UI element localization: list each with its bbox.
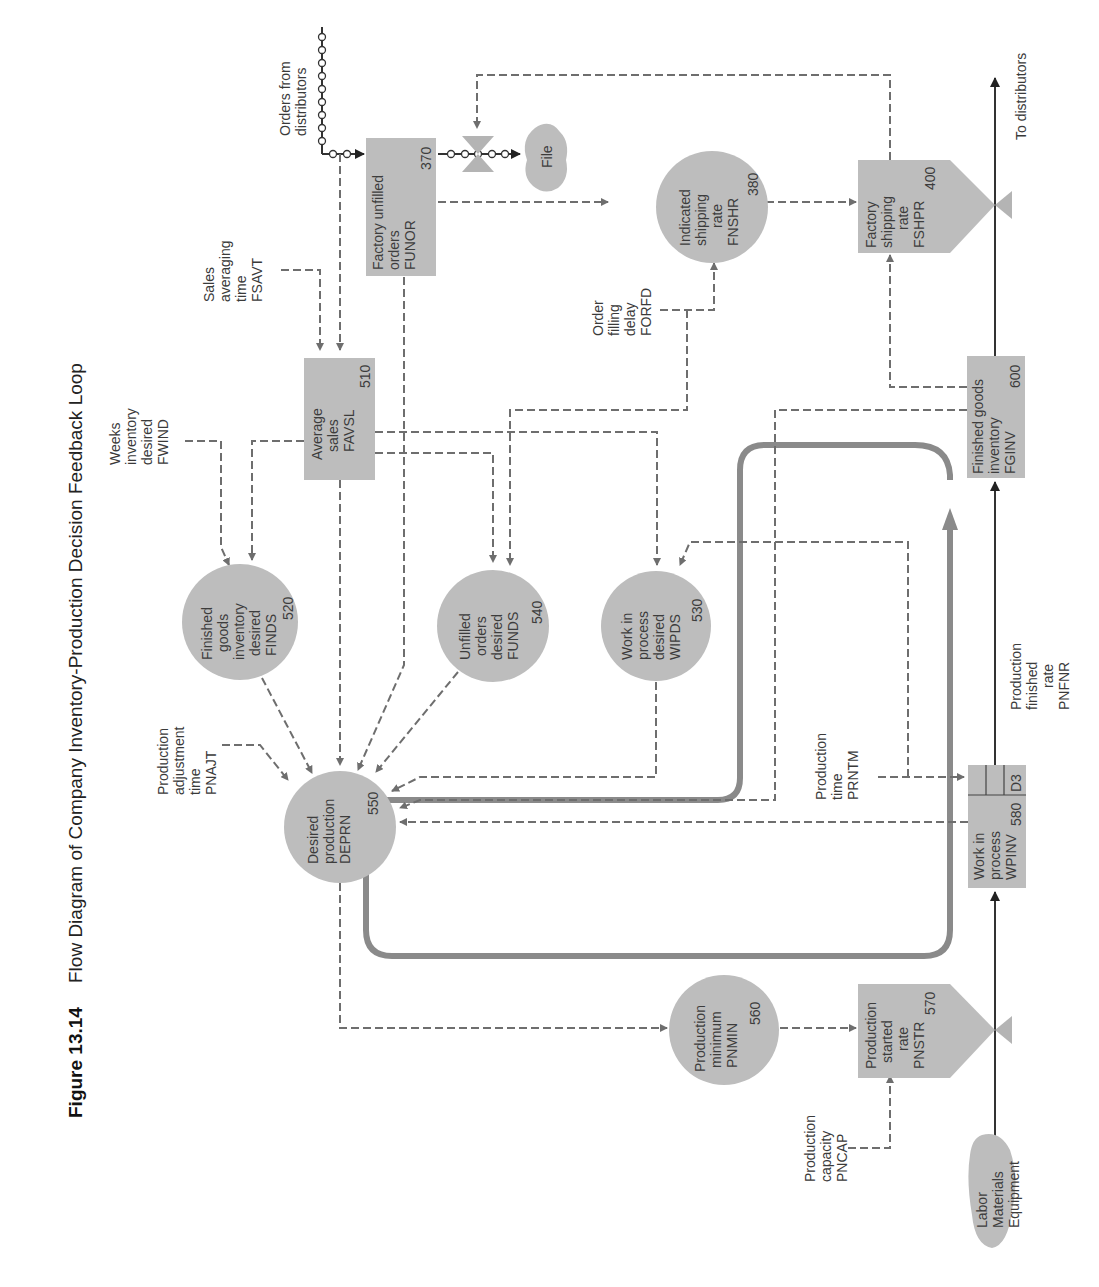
svg-text:FINDS: FINDS [263,614,279,656]
svg-text:PNAJT: PNAJT [203,750,219,795]
svg-text:400: 400 [922,166,938,190]
svg-text:Labor: Labor [974,1192,990,1228]
svg-text:rate: rate [1040,664,1056,688]
svg-text:inventory: inventory [231,603,247,660]
svg-text:inventory: inventory [123,408,139,465]
svg-text:530: 530 [689,598,705,622]
flow-diagram: Figure 13.14 Flow Diagram of Company Inv… [0,0,1099,1287]
label-orders-from: Orders from distributors [277,61,309,136]
svg-text:process: process [635,611,651,660]
svg-text:rate: rate [895,206,911,230]
source-file-cloud: File [525,124,567,192]
svg-text:PRNTM: PRNTM [845,750,861,800]
svg-text:finished: finished [1024,662,1040,710]
svg-text:delay: delay [622,303,638,336]
figure-title: Figure 13.14 Flow Diagram of Company Inv… [65,363,86,1118]
svg-text:orders: orders [386,230,402,270]
svg-text:Production: Production [1008,643,1024,710]
svg-text:desired: desired [489,614,505,660]
svg-text:orders: orders [473,616,489,656]
rate-valve-icon [995,1016,1012,1044]
svg-text:production: production [321,799,337,864]
svg-text:510: 510 [357,364,373,388]
node-pnstr[interactable]: Production started rate PNSTR 570 [858,984,995,1078]
feedback-loop [360,445,958,956]
svg-text:started: started [879,1020,895,1063]
svg-text:Materials: Materials [990,1171,1006,1228]
svg-text:PNCAP: PNCAP [834,1134,850,1182]
svg-text:sales: sales [325,419,341,452]
svg-text:desired: desired [247,610,263,656]
node-deprn[interactable]: Desired production DEPRN 550 [284,771,396,883]
svg-text:Average: Average [309,408,325,460]
svg-text:Finished: Finished [199,607,215,660]
label-fwind: Weeks inventory desired FWIND [107,408,171,465]
svg-text:370: 370 [418,146,434,170]
loop-arrow-icon [942,508,958,530]
svg-text:520: 520 [280,596,296,620]
svg-text:380: 380 [745,172,761,196]
svg-text:rate: rate [709,204,725,228]
svg-text:time: time [187,768,203,795]
node-pnmin[interactable]: Production minimum PNMIN 560 [669,975,779,1085]
node-fnshr[interactable]: Indicated shipping rate FNSHR FNSHR 380 [656,151,768,263]
node-funds[interactable]: Unfilled orders desired FUNDS 540 [437,570,549,682]
svg-text:File: File [539,145,555,168]
node-fshpr[interactable]: Factory shipping rate FSHPR 400 [858,160,995,253]
svg-text:goods: goods [215,614,231,652]
node-wpinv[interactable]: D3 Work in process WPINV 580 [968,765,1026,888]
svg-text:adjustment: adjustment [171,726,187,795]
information-links [185,75,968,1148]
svg-text:WPINV: WPINV [1003,833,1019,880]
svg-text:Orders from: Orders from [277,61,293,136]
svg-text:FNSHR: FNSHR [725,198,741,246]
node-favsl[interactable]: Average sales FAVSL 510 [304,358,375,480]
svg-text:Production: Production [813,733,829,800]
svg-text:Equipment: Equipment [1006,1161,1022,1228]
svg-text:FORFD: FORFD [638,288,654,336]
node-fginv[interactable]: Finished goods inventory FGINV 600 [967,356,1025,478]
delay-label: D3 [1008,774,1024,792]
svg-text:inventory: inventory [986,417,1002,474]
svg-text:time: time [233,275,249,302]
svg-text:Factory: Factory [863,201,879,248]
svg-text:560: 560 [747,1001,763,1025]
svg-text:time: time [829,773,845,800]
svg-text:minimum: minimum [708,1011,724,1068]
svg-text:540: 540 [529,600,545,624]
svg-text:Finished goods: Finished goods [970,379,986,474]
svg-text:desired: desired [139,419,155,465]
svg-text:PNFNR: PNFNR [1056,662,1072,710]
svg-text:FGINV: FGINV [1002,431,1018,474]
label-pnajt: Production adjustment time PNAJT [155,726,219,795]
figure-number: Figure 13.14 [65,1007,86,1118]
label-prntm: Production time PRNTM [813,733,861,800]
rate-valve-icon [995,191,1012,219]
svg-text:Unfilled: Unfilled [457,613,473,660]
svg-text:PNMIN: PNMIN [724,1023,740,1068]
svg-text:550: 550 [365,791,381,815]
label-fsavt: Sales averaging time FSAVT [201,241,265,303]
svg-text:PNSTR: PNSTR [911,1022,927,1069]
svg-text:distributors: distributors [293,68,309,136]
node-finds[interactable]: Finished goods inventory desired FINDS 5… [182,564,298,680]
svg-text:FUNOR: FUNOR [402,220,418,270]
svg-text:Work in: Work in [971,833,987,880]
node-wipds[interactable]: Work in process desired WIPDS 530 [601,571,711,681]
label-pnfnr: Production finished rate PNFNR [1008,643,1072,710]
svg-text:FSHPR: FSHPR [911,201,927,248]
svg-text:Work in: Work in [619,613,635,660]
svg-text:Weeks: Weeks [107,422,123,465]
svg-text:Order: Order [590,300,606,336]
svg-text:600: 600 [1007,364,1023,388]
svg-text:FUNDS: FUNDS [505,612,521,660]
svg-text:Indicated: Indicated [677,189,693,246]
svg-text:shipping: shipping [879,196,895,248]
source-labor-cloud: Labor Materials Equipment [968,1134,1022,1248]
svg-text:Production: Production [692,1005,708,1072]
svg-text:580: 580 [1008,802,1024,826]
svg-text:capacity: capacity [818,1131,834,1182]
svg-text:desired: desired [651,614,667,660]
svg-text:shipping: shipping [693,194,709,246]
node-funor[interactable]: Factory unfilled orders FUNOR 370 [366,138,436,276]
